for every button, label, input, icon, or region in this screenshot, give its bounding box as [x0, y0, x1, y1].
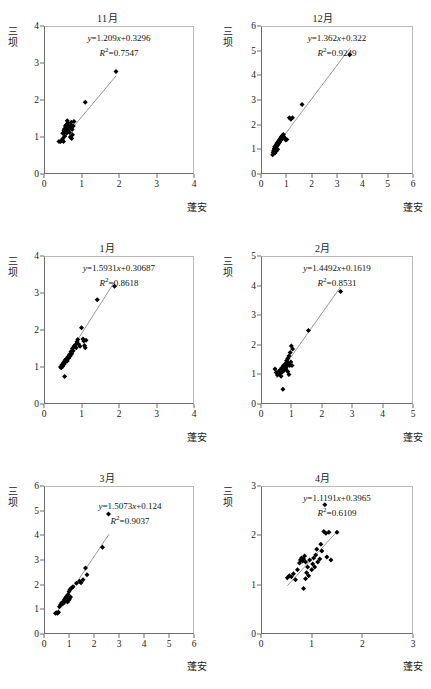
data-point-marker: [79, 325, 84, 330]
y-axis-label-char: 三: [221, 26, 235, 37]
data-point-marker: [83, 100, 88, 105]
y-axis-label-char: 坝: [221, 497, 235, 508]
y-axis-label-char: 三: [6, 26, 20, 37]
y-axis-label: 三坝: [6, 486, 20, 508]
x-axis-tick-mark: [387, 174, 388, 178]
x-axis-tick-mark: [194, 634, 195, 638]
x-axis-tick-mark: [119, 174, 120, 178]
x-axis-tick-mark: [352, 404, 353, 408]
x-axis-tick-mark: [261, 634, 262, 638]
x-axis-tick-mark: [169, 634, 170, 638]
y-axis-label-char: 坝: [221, 37, 235, 48]
plot-area: 0123401234y=1.5931x+0.30687R2=0.8618: [44, 256, 194, 404]
y-axis-label-char: 三: [221, 486, 235, 497]
y-axis-label-char: 坝: [6, 37, 20, 48]
scatter-panel: 2月三坝蓬安012345012345y=1.4492x+0.1619R2=0.8…: [215, 230, 431, 460]
data-point-marker: [85, 572, 90, 577]
y-axis-label-char: 坝: [6, 267, 20, 278]
x-axis-tick-mark: [261, 174, 262, 178]
x-axis-tick-mark: [362, 174, 363, 178]
plot-area: 01230123y=1.1191x+0.3965R2=0.6109: [261, 486, 413, 634]
scatter-panel: 4月三坝蓬安01230123y=1.1191x+0.3965R2=0.6109: [215, 460, 431, 689]
x-axis-tick-mark: [382, 404, 383, 408]
x-axis-tick-mark: [311, 174, 312, 178]
data-point-marker: [95, 297, 100, 302]
data-point-marker: [100, 545, 105, 550]
x-axis-tick-mark: [194, 404, 195, 408]
scatter-canvas: [261, 486, 413, 634]
panel-title: 11月: [0, 10, 215, 25]
panel-title: 1月: [0, 240, 215, 255]
x-axis-label: 蓬安: [187, 429, 207, 444]
scatter-canvas: [44, 256, 194, 404]
data-point-marker: [106, 512, 111, 517]
x-axis-tick-mark: [413, 174, 414, 178]
scatter-panel: 1月三坝蓬安0123401234y=1.5931x+0.30687R2=0.86…: [0, 230, 215, 460]
data-point-marker: [114, 69, 119, 74]
x-axis-tick-mark: [337, 174, 338, 178]
x-axis-tick-mark: [81, 404, 82, 408]
scatter-canvas: [261, 26, 413, 174]
data-point-marker: [347, 52, 352, 57]
x-axis-tick-mark: [286, 174, 287, 178]
panel-title: 3月: [0, 470, 215, 485]
y-axis-label-char: 三: [6, 486, 20, 497]
y-axis-label-char: 三: [221, 256, 235, 267]
panel-title: 4月: [215, 470, 431, 485]
scatter-canvas: [261, 256, 413, 404]
data-point-marker: [295, 567, 300, 572]
x-axis-tick-mark: [291, 404, 292, 408]
data-point-marker: [328, 558, 333, 563]
y-axis-label-char: 坝: [6, 497, 20, 508]
x-axis-label: 蓬安: [403, 429, 423, 444]
y-axis-label: 三坝: [221, 26, 235, 48]
x-axis-tick-mark: [119, 404, 120, 408]
data-point-marker: [322, 502, 327, 507]
x-axis-tick-mark: [44, 174, 45, 178]
plot-area: 01234560123456y=1.362x+0.322R2=0.9249: [261, 26, 413, 174]
scatter-panel: 11月三坝蓬安0123401234y=1.209x+0.3296R2=0.754…: [0, 0, 215, 230]
plot-area: 012345012345y=1.4492x+0.1619R2=0.8531: [261, 256, 413, 404]
x-axis-tick-mark: [44, 634, 45, 638]
scatter-canvas: [44, 486, 194, 634]
x-axis-tick-mark: [261, 404, 262, 408]
x-axis-tick-mark: [156, 404, 157, 408]
data-point-marker: [301, 586, 306, 591]
figure-grid: 11月三坝蓬安0123401234y=1.209x+0.3296R2=0.754…: [0, 0, 431, 689]
scatter-panel: 12月三坝蓬安01234560123456y=1.362x+0.322R2=0.…: [215, 0, 431, 230]
plot-area: 01234560123456y=1.5073x+0.124R2=0.9037: [44, 486, 194, 634]
x-axis-tick-mark: [69, 634, 70, 638]
x-axis-tick-mark: [94, 634, 95, 638]
x-axis-label: 蓬安: [187, 199, 207, 214]
panel-title: 12月: [215, 10, 431, 25]
x-axis-tick-mark: [311, 634, 312, 638]
x-axis-label: 蓬安: [403, 199, 423, 214]
y-axis-label: 三坝: [221, 256, 235, 278]
y-axis-label: 三坝: [221, 486, 235, 508]
x-axis-tick-mark: [156, 174, 157, 178]
data-point-marker: [300, 102, 305, 107]
y-axis-label-char: 坝: [221, 267, 235, 278]
x-axis-tick-mark: [81, 174, 82, 178]
y-axis-label: 三坝: [6, 26, 20, 48]
y-axis-label-char: 三: [6, 256, 20, 267]
data-point-marker: [314, 547, 319, 552]
x-axis-tick-mark: [144, 634, 145, 638]
x-axis-label: 蓬安: [403, 658, 423, 673]
data-point-marker: [324, 555, 329, 560]
x-axis-tick-mark: [44, 404, 45, 408]
plot-area: 0123401234y=1.209x+0.3296R2=0.7547: [44, 26, 194, 174]
data-point-marker: [280, 387, 285, 392]
x-axis-tick-mark: [413, 634, 414, 638]
x-axis-tick-mark: [194, 174, 195, 178]
x-axis-label: 蓬安: [187, 658, 207, 673]
data-point-marker: [307, 558, 312, 563]
x-axis-tick-mark: [362, 634, 363, 638]
y-axis-label: 三坝: [6, 256, 20, 278]
x-axis-tick-mark: [119, 634, 120, 638]
data-point-marker: [318, 542, 323, 547]
data-point-marker: [293, 577, 298, 582]
data-point-marker: [62, 374, 67, 379]
scatter-panel: 3月三坝蓬安01234560123456y=1.5073x+0.124R2=0.…: [0, 460, 215, 689]
scatter-canvas: [44, 26, 194, 174]
